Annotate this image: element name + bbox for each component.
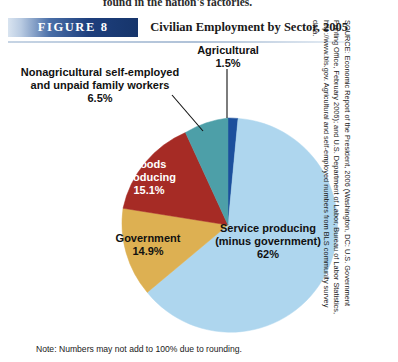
running-text-fragment: found in the nation's factories. (0, 0, 355, 7)
callout-nonag-line1: Nonagricultural self-employed (6, 66, 194, 79)
slice-label-goods-line2: producing (106, 171, 192, 184)
slice-label-goods-line1: Goods (106, 158, 192, 171)
slice-label-government: Government 14.9% (92, 232, 204, 258)
callout-label-agricultural: Agricultural 1.5% (176, 44, 280, 70)
figure-page: found in the nation's factories. FIGURE … (0, 0, 398, 362)
callout-nonag-line2: and unpaid family workers (6, 79, 194, 92)
slice-label-goods-producing: Goods producing 15.1% (106, 158, 192, 197)
figure-header-divider (8, 41, 348, 43)
source-note: SOURCE: Economic Report of the President… (308, 20, 352, 320)
rounding-note: Note: Numbers may not add to 100% due to… (36, 344, 242, 354)
slice-label-government-name: Government (92, 232, 204, 245)
slice-label-government-value: 14.9% (92, 245, 204, 258)
slice-label-goods-value: 15.1% (106, 184, 192, 197)
callout-agricultural-name: Agricultural (176, 44, 280, 57)
figure-number-label: FIGURE 8 (38, 20, 109, 35)
figure-header: FIGURE 8 Civilian Employment by Sector, … (8, 18, 348, 37)
figure-number-banner: FIGURE 8 (8, 18, 138, 37)
callout-nonag-value: 6.5% (6, 92, 194, 105)
callout-label-nonagricultural: Nonagricultural self-employed and unpaid… (6, 66, 194, 106)
callout-agricultural-value: 1.5% (176, 57, 280, 70)
